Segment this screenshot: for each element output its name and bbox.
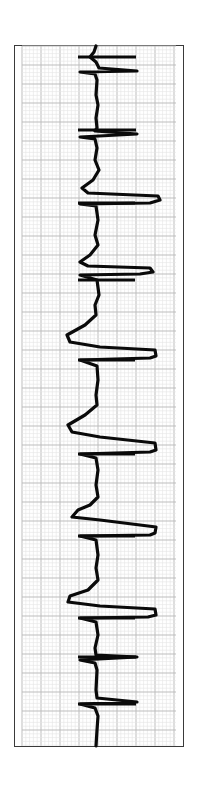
- ecg-trace-canvas: [0, 0, 199, 791]
- ecg-grid: [22, 46, 176, 746]
- ecg-waveform: [67, 46, 160, 746]
